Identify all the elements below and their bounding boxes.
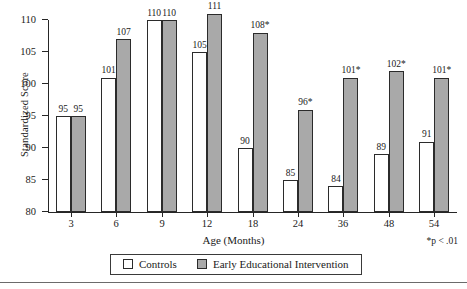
legend-swatch-controls	[123, 259, 133, 269]
x-axis-tick	[389, 212, 390, 217]
x-axis-tick-label: 12	[187, 218, 227, 229]
bar-controls-18mo	[238, 148, 253, 212]
x-axis-tick	[162, 212, 163, 217]
page-divider-rule	[0, 282, 467, 283]
x-axis-tick	[71, 212, 72, 217]
y-axis-tick	[42, 115, 48, 116]
bar-intervention-54mo	[434, 78, 449, 212]
x-axis-tick	[116, 212, 117, 217]
x-axis-tick	[298, 212, 299, 217]
y-axis-tick-label: 85	[6, 175, 36, 185]
bar-value-label: 108*	[247, 21, 274, 31]
bar-intervention-24mo	[298, 110, 313, 212]
bar-intervention-18mo	[253, 33, 268, 212]
y-axis-tick	[42, 51, 48, 52]
chart-legend: Controls Early Educational Intervention	[110, 254, 362, 275]
bar-intervention-6mo	[116, 39, 131, 212]
bar-value-label: 102*	[383, 60, 410, 70]
y-axis-tick	[42, 211, 48, 212]
bar-controls-9mo	[147, 20, 162, 212]
bar-intervention-12mo	[207, 14, 222, 212]
bar-controls-24mo	[283, 180, 298, 212]
x-axis-tick-label: 36	[323, 218, 363, 229]
bar-intervention-9mo	[162, 20, 177, 212]
bar-controls-48mo	[374, 154, 389, 212]
x-axis-tick	[207, 212, 208, 217]
significance-note: *p < .01	[427, 236, 458, 246]
bar-value-label: 107	[110, 28, 137, 38]
y-axis-tick	[42, 147, 48, 148]
bar-value-label: 101*	[428, 66, 455, 76]
bar-controls-36mo	[328, 186, 343, 212]
y-axis-tick	[42, 83, 48, 84]
x-axis-tick	[434, 212, 435, 217]
bar-intervention-48mo	[389, 71, 404, 212]
bar-value-label: 96*	[292, 98, 319, 108]
bar-value-label: 95	[65, 105, 92, 115]
legend-item-controls: Controls	[123, 258, 177, 270]
bar-value-label: 111	[201, 2, 228, 12]
x-axis-tick-label: 9	[142, 218, 182, 229]
y-axis-tick-label: 95	[6, 111, 36, 121]
bar-controls-3mo	[56, 116, 71, 212]
bar-value-label: 101*	[337, 66, 364, 76]
plot-area: 8085909510010511039595610110791101101210…	[48, 20, 457, 212]
bar-controls-12mo	[192, 52, 207, 212]
x-axis-tick	[253, 212, 254, 217]
bar-intervention-3mo	[71, 116, 86, 212]
y-axis-tick-label: 105	[6, 47, 36, 57]
y-axis-tick-label: 90	[6, 143, 36, 153]
x-axis-title: Age (Months)	[0, 234, 467, 246]
y-axis-tick-label: 80	[6, 207, 36, 217]
bar-intervention-36mo	[343, 78, 358, 212]
x-axis-tick-label: 3	[51, 218, 91, 229]
x-axis-tick-label: 24	[278, 218, 318, 229]
bar-value-label: 110	[156, 9, 183, 19]
y-axis-tick	[42, 19, 48, 20]
bar-controls-6mo	[101, 78, 116, 212]
x-axis-tick-label: 18	[233, 218, 273, 229]
x-axis-tick-label: 6	[96, 218, 136, 229]
x-axis-tick-label: 54	[414, 218, 454, 229]
chart-figure: Standardized Score 808590951001051103959…	[0, 0, 467, 289]
y-axis-tick-label: 110	[6, 15, 36, 25]
x-axis-tick-label: 48	[369, 218, 409, 229]
legend-label-controls: Controls	[139, 258, 177, 270]
bar-controls-54mo	[419, 142, 434, 212]
y-axis-tick	[42, 179, 48, 180]
legend-swatch-early-educational-intervention	[197, 259, 207, 269]
y-axis-tick-label: 100	[6, 79, 36, 89]
legend-label-early-educational-intervention: Early Educational Intervention	[213, 258, 349, 270]
x-axis-tick	[343, 212, 344, 217]
legend-item-early-educational-intervention: Early Educational Intervention	[197, 258, 349, 270]
